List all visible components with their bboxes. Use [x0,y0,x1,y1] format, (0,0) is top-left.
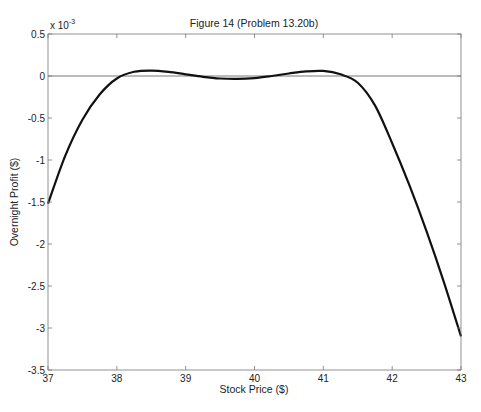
y-tick-label: -2 [36,239,45,250]
x-axis-label: Stock Price ($) [220,383,289,395]
profit-curve [48,71,461,337]
chart-title: Figure 14 (Problem 13.20b) [190,17,318,29]
x-tick-label: 43 [455,373,467,384]
y-axis-label: Overnight Profit ($) [8,158,20,247]
y-tick-label: -1 [36,155,45,166]
y-tick-label: 0 [39,71,45,82]
x-tick-label: 38 [111,373,123,384]
y-tick-label: -3 [36,323,45,334]
y-tick-label: -2.5 [28,281,46,292]
y-axis: 0.50-0.5-1-1.5-2-2.5-3-3.5 [28,29,461,376]
y-tick-label: 0.5 [31,29,45,40]
x-tick-label: 41 [318,373,330,384]
y-multiplier: x 10-3 [50,18,75,31]
x-tick-label: 42 [387,373,399,384]
y-tick-label: -1.5 [28,197,46,208]
x-tick-label: 39 [180,373,192,384]
chart: Figure 14 (Problem 13.20b) x 10-3 373839… [0,0,481,412]
y-tick-label: -0.5 [28,113,46,124]
y-tick-label: -3.5 [28,365,46,376]
